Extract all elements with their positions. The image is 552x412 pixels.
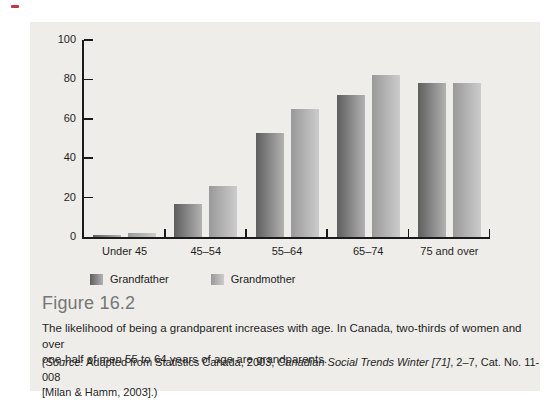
category-label-0: Under 45: [84, 245, 165, 257]
page: { "figure": { "label": "Figure 16.2", "c…: [0, 0, 552, 412]
bar-grandfather-1: [174, 204, 202, 237]
legend-item-grandmother: Grandmother: [211, 273, 296, 285]
source-line-2: [Milan & Hamm, 2003].): [42, 385, 540, 400]
bar-grandmother-0: [128, 233, 156, 237]
y-tick: [84, 39, 93, 41]
legend-label-grandfather: Grandfather: [110, 273, 169, 285]
y-tick-label: 0: [36, 230, 76, 242]
legend-label-grandmother: Grandmother: [231, 273, 296, 285]
plot-area: 020406080100Under 4545–5455–6465–7475 an…: [82, 40, 490, 239]
category-label-1: 45–54: [165, 245, 246, 257]
figure-label: Figure 16.2: [42, 293, 135, 314]
category-label-3: 65–74: [328, 245, 409, 257]
x-tick: [245, 229, 247, 237]
bar-grandfather-2: [256, 133, 284, 237]
bar-grandmother-3: [372, 75, 400, 237]
category-label-2: 55–64: [246, 245, 327, 257]
source-journal: Canadian Social Trends Winter [71]: [277, 356, 450, 368]
caption-line-1: The likelihood of being a grandparent in…: [42, 321, 540, 352]
y-tick: [84, 118, 93, 120]
x-tick: [489, 229, 491, 237]
legend: Grandfather Grandmother: [90, 273, 296, 285]
y-tick: [84, 157, 93, 159]
x-tick: [408, 229, 410, 237]
y-tick-label: 80: [36, 72, 76, 84]
y-tick-label: 100: [36, 33, 76, 45]
x-tick: [164, 229, 166, 237]
figure-panel: 020406080100Under 4545–5455–6465–7475 an…: [30, 22, 540, 391]
y-tick-label: 60: [36, 112, 76, 124]
bar-grandmother-2: [291, 109, 319, 237]
bar-grandmother-4: [453, 83, 481, 237]
x-tick: [326, 229, 328, 237]
y-tick: [84, 79, 93, 81]
bar-grandfather-4: [418, 83, 446, 237]
legend-item-grandfather: Grandfather: [90, 273, 169, 285]
figure-source: (Source: Adapted from Statistics Canada,…: [42, 355, 540, 400]
category-label-4: 75 and over: [409, 245, 490, 257]
y-tick-label: 20: [36, 191, 76, 203]
y-tick-label: 40: [36, 151, 76, 163]
bar-grandfather-3: [337, 95, 365, 237]
source-word: (Source:: [42, 356, 84, 368]
y-tick: [84, 197, 93, 199]
grandfather-swatch-icon: [90, 274, 103, 285]
bar-grandfather-0: [93, 235, 121, 237]
source-line-1: (Source: Adapted from Statistics Canada,…: [42, 355, 540, 385]
grandmother-swatch-icon: [211, 274, 224, 285]
bar-grandmother-1: [209, 186, 237, 237]
red-accent-mark: [11, 5, 19, 8]
